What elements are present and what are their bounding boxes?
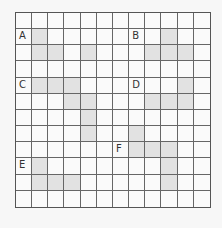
grid-cell [194,45,210,61]
grid-cell [64,45,80,61]
shaded-cell [48,45,64,61]
grid-cell [97,45,113,61]
grid-cell [81,61,97,77]
grid-cell [32,13,48,29]
grid-cell [145,126,161,142]
shaded-cell [129,126,145,142]
grid-cell [178,126,194,142]
grid-cell [113,110,129,126]
grid-cell [97,78,113,94]
grid-cell [145,78,161,94]
grid-cell [145,158,161,174]
shaded-cell [178,78,194,94]
grid-cell [178,158,194,174]
grid-cell [97,61,113,77]
grid-cell [129,110,145,126]
grid-cell [97,142,113,158]
grid-cell [48,29,64,45]
grid-cell [16,142,32,158]
shaded-cell [161,158,177,174]
grid-cell [16,126,32,142]
grid-cell [129,45,145,61]
grid-cell [113,94,129,110]
grid-cell [113,45,129,61]
shaded-cell [48,78,64,94]
grid-cell [113,13,129,29]
grid-cell [97,175,113,191]
shape-label: C [19,80,26,90]
grid-cell [32,94,48,110]
shaded-cell [81,45,97,61]
grid-cell [16,94,32,110]
shaded-cell [32,78,48,94]
grid-cell [97,94,113,110]
shaded-cell [64,175,80,191]
grid-cell [48,110,64,126]
grid-cell [145,191,161,207]
grid-cell [97,13,113,29]
shaded-cell [145,45,161,61]
grid-cell [64,29,80,45]
shaded-cell [161,94,177,110]
grid-cell [113,158,129,174]
grid-cell [81,13,97,29]
shaded-cell [145,94,161,110]
grid-cell [64,191,80,207]
grid-cell [194,142,210,158]
grid-cell [97,126,113,142]
grid-cell [194,13,210,29]
grid-cell [178,175,194,191]
shaded-cell [32,29,48,45]
shaded-cell [64,94,80,110]
grid-cell [48,94,64,110]
grid-cell [178,29,194,45]
grid-cell [16,110,32,126]
grid-cell [97,158,113,174]
grid-cell [81,78,97,94]
grid-cell [145,110,161,126]
grid-cell [64,61,80,77]
shaded-cell [161,45,177,61]
grid-cell [113,191,129,207]
grid-cell [145,61,161,77]
grid-cell: D [129,78,145,94]
grid-cell [178,13,194,29]
grid-cell: F [113,142,129,158]
grid-cell [48,142,64,158]
shaded-cell [178,45,194,61]
grid-cell [129,158,145,174]
shaded-cell [81,110,97,126]
shaded-cell [81,94,97,110]
shape-grid: ABCDFE [15,12,211,208]
grid-cell: A [16,29,32,45]
grid-cell [178,61,194,77]
grid-cell: C [16,78,32,94]
grid-cell: E [16,158,32,174]
grid-cell [97,29,113,45]
shape-label: A [19,31,26,41]
grid-cell [113,29,129,45]
grid-cell [178,191,194,207]
grid-cell [145,175,161,191]
grid-cell [194,94,210,110]
grid-cell [16,13,32,29]
grid-cell [161,61,177,77]
shaded-cell [48,175,64,191]
shaded-cell [81,126,97,142]
shaded-cell [32,175,48,191]
grid-cell [81,142,97,158]
grid-cell [16,175,32,191]
grid-cell [48,126,64,142]
grid-cell [81,158,97,174]
grid-cell [194,191,210,207]
shaded-cell [32,45,48,61]
grid-cell [194,78,210,94]
grid-cell [113,175,129,191]
grid-cell [48,13,64,29]
grid-cell [32,110,48,126]
shaded-cell [161,142,177,158]
grid-cell [48,191,64,207]
grid-cell [194,158,210,174]
grid-cell [129,191,145,207]
shaded-cell [129,142,145,158]
